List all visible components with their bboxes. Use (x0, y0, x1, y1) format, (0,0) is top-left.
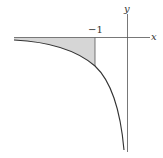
x-axis-label: x (151, 31, 157, 42)
graph: −1 x y (0, 0, 163, 158)
tick-label-minus-one: −1 (88, 24, 103, 35)
curve (14, 40, 124, 150)
y-axis-label: y (123, 3, 130, 14)
shaded-region (14, 38, 95, 66)
